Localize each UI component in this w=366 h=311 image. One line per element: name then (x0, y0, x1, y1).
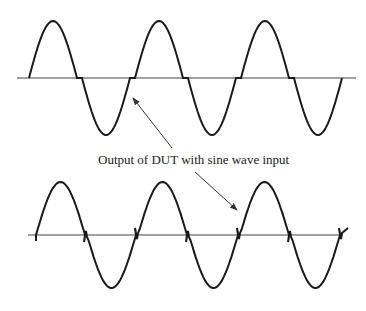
arrow-to-bottom-waveform (195, 172, 237, 210)
annotation-label: Output of DUT with sine wave input (98, 152, 289, 168)
arrow-to-top-waveform (133, 98, 172, 148)
